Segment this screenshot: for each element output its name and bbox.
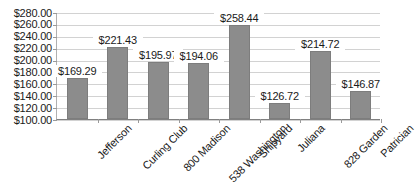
bar[interactable]: [148, 62, 169, 119]
y-axis-tick-label: $240.00: [0, 31, 52, 42]
y-axis-tick-mark: [53, 13, 57, 14]
y-axis-tick-label: $200.00: [0, 55, 52, 66]
y-axis-tick-label: $120.00: [0, 103, 52, 114]
y-axis-tick-label: $180.00: [0, 67, 52, 78]
y-axis-tick-mark: [53, 49, 57, 50]
y-axis-tick-label: $280.00: [0, 8, 52, 19]
y-axis-tick-mark: [53, 84, 57, 85]
bar[interactable]: [67, 78, 88, 119]
plot-area: [56, 13, 380, 120]
y-axis-tick-label: $220.00: [0, 43, 52, 54]
bar[interactable]: [350, 91, 371, 119]
bar-value-label: $194.06: [174, 50, 224, 62]
bar[interactable]: [107, 47, 128, 119]
bar[interactable]: [229, 25, 250, 119]
gridline: [57, 108, 380, 109]
gridline: [57, 96, 380, 97]
x-axis-labels: JeffersonCurling Club800 Madison538 Wash…: [0, 122, 389, 195]
y-axis-tick-mark: [53, 37, 57, 38]
x-axis-category-label: Juliana: [295, 122, 327, 154]
bar[interactable]: [269, 103, 290, 119]
y-axis-tick-mark: [53, 108, 57, 109]
bar-value-label: $214.72: [295, 38, 345, 50]
bar-value-label: $221.43: [93, 34, 143, 46]
x-axis-category-label: Jefferson: [95, 122, 134, 161]
y-axis-tick-label: $140.00: [0, 91, 52, 102]
y-axis-tick-mark: [53, 120, 57, 121]
gridline: [57, 25, 380, 26]
gridline: [57, 72, 380, 73]
gridline: [57, 84, 380, 85]
y-axis-tick-mark: [53, 25, 57, 26]
y-axis-tick-mark: [53, 61, 57, 62]
bar[interactable]: [310, 51, 331, 119]
y-axis-tick-mark: [53, 96, 57, 97]
bar[interactable]: [188, 63, 209, 119]
bar-value-label: $146.87: [336, 78, 386, 90]
bar-value-label: $126.72: [255, 90, 305, 102]
y-axis-tick-label: $260.00: [0, 19, 52, 30]
bar-value-label: $169.29: [52, 65, 102, 77]
bar-value-label: $258.44: [214, 12, 264, 24]
y-axis-tick-label: $160.00: [0, 79, 52, 90]
